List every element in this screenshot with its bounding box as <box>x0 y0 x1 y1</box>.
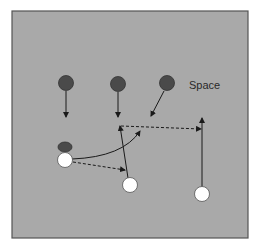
space-label: Space <box>189 79 220 91</box>
attacker-3 <box>195 187 210 202</box>
attacker-ball-carrier <box>58 153 73 168</box>
defender-1 <box>59 76 74 91</box>
defender-3 <box>160 76 175 91</box>
ball-icon <box>58 142 72 152</box>
ball <box>58 142 72 152</box>
annotations: Space <box>189 79 220 91</box>
pitch-area <box>12 11 248 238</box>
soccer-tactic-diagram: Space <box>0 0 258 251</box>
attacker-2 <box>123 178 138 193</box>
defender-2 <box>111 77 126 92</box>
